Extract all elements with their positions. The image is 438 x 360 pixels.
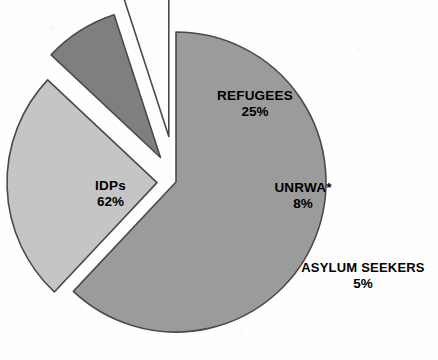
slice-label-asylum-value: 5% [288,276,438,292]
slice-label-idps: IDPs 62% [63,178,158,211]
pie-chart: IDPs 62% REFUGEES 25% UNRWA* 8% ASYLUM S… [0,0,438,360]
slice-label-idps-value: 62% [63,194,158,210]
slice-label-asylum: ASYLUM SEEKERS 5% [288,260,438,292]
slice-label-unrwa: UNRWA* 8% [255,180,351,213]
slice-label-unrwa-name: UNRWA* [255,180,351,196]
slice-label-asylum-name: ASYLUM SEEKERS [288,260,438,276]
pie-slices-group [7,0,326,332]
slice-label-refugees: REFUGEES 25% [196,88,314,121]
slice-label-refugees-value: 25% [196,104,314,120]
slice-label-unrwa-value: 8% [255,196,351,212]
slice-label-idps-name: IDPs [63,178,158,194]
slice-label-refugees-name: REFUGEES [196,88,314,104]
